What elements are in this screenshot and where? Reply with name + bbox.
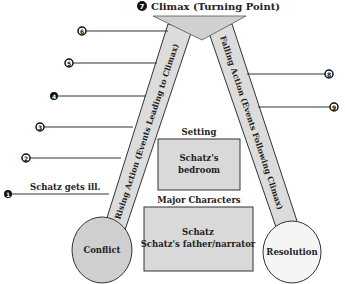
setting-line-1: Schatz's <box>179 153 218 163</box>
characters-line-1: Schatz <box>182 227 214 237</box>
svg-text:1: 1 <box>6 191 10 198</box>
setting-line-2: bedroom <box>178 165 220 175</box>
svg-text:9: 9 <box>332 104 336 111</box>
svg-text:8: 8 <box>327 71 331 78</box>
resolution-label: Resolution <box>266 247 317 257</box>
setting-heading: Setting <box>182 127 217 137</box>
svg-text:6: 6 <box>80 28 84 35</box>
conflict-label: Conflict <box>83 245 120 255</box>
svg-text:4: 4 <box>52 93 56 100</box>
svg-text:3: 3 <box>38 124 42 131</box>
falling-event-lines <box>247 74 330 107</box>
plot-diagram: 7 Climax (Turning Point) Rising Action (… <box>0 0 345 284</box>
characters-line-2: Schatz's father/narrator <box>141 239 256 249</box>
characters-heading: Major Characters <box>157 195 241 205</box>
svg-text:7: 7 <box>140 3 145 11</box>
event-1-text: Schatz gets ill. <box>30 182 100 192</box>
rising-event-badges: 6 5 4 3 2 1 <box>4 27 86 198</box>
falling-event-badges: 8 9 <box>325 70 338 111</box>
rising-action-label: Rising Action (Events Leading to Climax) <box>112 42 180 221</box>
plot-diagram-canvas: 7 Climax (Turning Point) Rising Action (… <box>0 0 345 284</box>
svg-text:5: 5 <box>67 60 71 67</box>
climax-title: 7 Climax (Turning Point) <box>137 1 280 12</box>
svg-text:2: 2 <box>24 155 28 162</box>
climax-label: Climax (Turning Point) <box>151 1 280 12</box>
